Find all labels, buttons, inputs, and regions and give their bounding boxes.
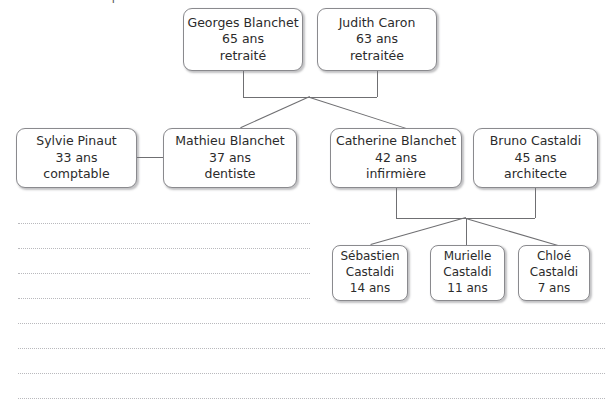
person-name-line1: Murielle: [444, 249, 492, 265]
ruled-line: [18, 248, 310, 249]
person-box-sylvie-pinaut[interactable]: Sylvie Pinaut33 anscomptable: [16, 128, 137, 188]
connector-to-mathieu: [240, 96, 310, 128]
person-age: 63 ans: [356, 31, 398, 48]
person-age: 42 ans: [375, 150, 417, 167]
person-name: Catherine Blanchet: [336, 133, 456, 150]
connector-judith-drop: [377, 71, 378, 97]
person-occupation: infirmière: [366, 166, 426, 183]
person-age: 37 ans: [209, 150, 251, 167]
person-box-judith-caron[interactable]: Judith Caron63 ansretraitée: [317, 8, 437, 71]
person-occupation: comptable: [43, 166, 109, 183]
ruled-line: [18, 223, 310, 224]
ruled-line: [18, 373, 605, 374]
connector-bruno-drop: [535, 188, 536, 218]
person-box-catherine-blanchet[interactable]: Catherine Blanchet42 ansinfirmière: [330, 128, 462, 188]
connector-georges-drop: [243, 71, 244, 97]
person-box-sebastien-castaldi[interactable]: SébastienCastaldi14 ans: [332, 245, 408, 301]
person-name-line1: Chloé: [537, 249, 571, 265]
person-name-line2: Castaldi: [443, 265, 491, 281]
family-tree-worksheet: famille dans un petit tableau Georges Bl…: [0, 0, 615, 405]
person-age: 65 ans: [222, 31, 264, 48]
person-box-murielle-castaldi[interactable]: MurielleCastaldi11 ans: [430, 245, 505, 301]
person-age: 7 ans: [538, 281, 571, 297]
person-name-line2: Castaldi: [530, 265, 578, 281]
person-name-line1: Sébastien: [340, 249, 399, 265]
person-age: 45 ans: [515, 150, 557, 167]
connector-catherine-drop: [396, 188, 397, 218]
ruled-line: [18, 323, 605, 324]
person-occupation: architecte: [504, 166, 567, 183]
person-name: Mathieu Blanchet: [175, 133, 284, 150]
connector-to-murielle: [466, 218, 467, 245]
connector-to-chloe: [466, 218, 558, 246]
person-age: 14 ans: [350, 281, 390, 297]
person-box-chloe-castaldi[interactable]: ChloéCastaldi7 ans: [518, 245, 590, 301]
person-age: 11 ans: [447, 281, 487, 297]
person-name: Bruno Castaldi: [490, 133, 582, 150]
connector-marriage-sylvie-mathieu: [137, 157, 163, 158]
person-age: 33 ans: [56, 150, 98, 167]
person-name: Judith Caron: [339, 15, 416, 32]
clipped-header-text: famille dans un petit tableau: [18, 0, 187, 3]
connector-to-catherine: [310, 97, 407, 129]
person-occupation: retraité: [220, 48, 266, 65]
person-occupation: retraitée: [350, 48, 404, 65]
ruled-line: [18, 298, 310, 299]
person-name: Sylvie Pinaut: [36, 133, 116, 150]
ruled-line: [18, 348, 605, 349]
ruled-line: [18, 273, 310, 274]
person-name: Georges Blanchet: [187, 15, 298, 32]
person-box-mathieu-blanchet[interactable]: Mathieu Blanchet37 ansdentiste: [163, 128, 297, 188]
ruled-line: [18, 398, 605, 399]
person-name-line2: Castaldi: [346, 265, 394, 281]
connector-to-sebastien: [370, 217, 466, 245]
person-box-bruno-castaldi[interactable]: Bruno Castaldi45 ansarchitecte: [473, 128, 598, 188]
person-occupation: dentiste: [204, 166, 255, 183]
person-box-georges-blanchet[interactable]: Georges Blanchet65 ansretraité: [183, 8, 303, 71]
